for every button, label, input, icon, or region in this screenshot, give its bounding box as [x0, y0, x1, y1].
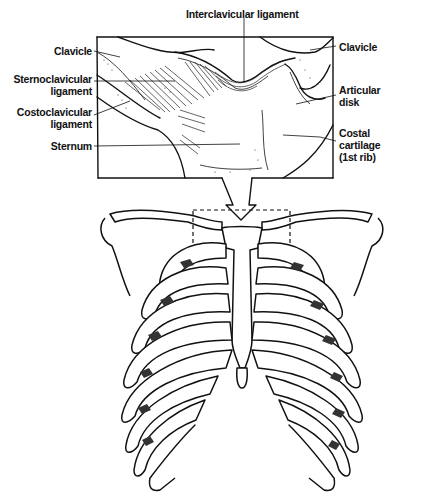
label-line: disk — [339, 96, 380, 108]
label-line: cartilage — [339, 139, 380, 151]
label-articular-disk: Articular disk — [339, 84, 380, 108]
ribs-left — [122, 243, 232, 491]
label-line: (1st rib) — [339, 151, 380, 163]
label-line: ligament — [17, 118, 92, 130]
label-clavicle-left: Clavicle — [54, 45, 92, 57]
label-line: Articular — [339, 84, 380, 96]
funnel-arrow — [222, 178, 256, 220]
label-costal-cartilage: Costal cartilage (1st rib) — [339, 127, 380, 163]
label-costoclavicular-ligament: Costoclavicular ligament — [17, 106, 92, 130]
label-line: Costoclavicular — [17, 106, 92, 118]
label-interclavicular-ligament: Interclavicular ligament — [186, 8, 299, 20]
label-sternoclavicular-ligament: Sternoclavicular ligament — [13, 73, 92, 97]
inset-frame — [97, 37, 333, 178]
label-sternum: Sternum — [51, 140, 92, 152]
label-line: ligament — [13, 85, 92, 97]
ribs-right — [252, 243, 362, 491]
inset-anatomy — [97, 37, 333, 178]
label-clavicle-right: Clavicle — [339, 41, 377, 53]
label-line: Costal — [339, 127, 380, 139]
label-line: Sternoclavicular — [13, 73, 92, 85]
